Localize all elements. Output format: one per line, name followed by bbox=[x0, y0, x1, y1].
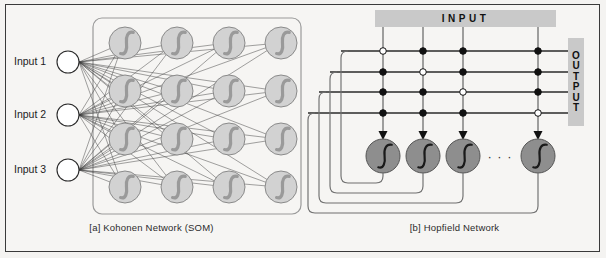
neuron-ellipsis: · · · bbox=[487, 149, 512, 164]
junction-filled[interactable] bbox=[460, 48, 467, 55]
input-label-1: Input 1 bbox=[14, 55, 46, 67]
input-label-3: Input 3 bbox=[14, 163, 46, 175]
junction-filled[interactable] bbox=[380, 89, 387, 96]
output-letter-5: T bbox=[573, 103, 579, 114]
hopfield-input-lines bbox=[379, 27, 543, 140]
input-node[interactable] bbox=[57, 104, 79, 126]
junction-open[interactable] bbox=[460, 89, 467, 96]
hopfield-junctions bbox=[380, 48, 542, 117]
feedback-loop bbox=[330, 72, 423, 193]
output-bar-label: OUTPUT bbox=[568, 38, 584, 126]
output-letter-1: U bbox=[572, 61, 579, 72]
junction-filled[interactable] bbox=[535, 48, 542, 55]
hopfield-output-rows bbox=[308, 47, 582, 118]
hopfield-neuron[interactable] bbox=[366, 139, 400, 173]
hopfield-neurons bbox=[366, 139, 555, 173]
kohonen-connections bbox=[79, 43, 279, 187]
hopfield-neuron[interactable] bbox=[521, 139, 555, 173]
junction-filled[interactable] bbox=[420, 89, 427, 96]
junction-filled[interactable] bbox=[420, 110, 427, 117]
input-node[interactable] bbox=[57, 159, 79, 181]
panel-kohonen-network: Input 1 Input 2 Input 3 bbox=[0, 0, 303, 258]
panel-hopfield-network: · · · bbox=[303, 0, 606, 258]
junction-open[interactable] bbox=[380, 48, 387, 55]
junction-filled[interactable] bbox=[460, 110, 467, 117]
caption-kohonen: [a] Kohonen Network (SOM) bbox=[0, 222, 303, 233]
kohonen-diagram bbox=[0, 0, 303, 258]
junction-open[interactable] bbox=[420, 69, 427, 76]
hopfield-neuron[interactable] bbox=[406, 139, 440, 173]
junction-filled[interactable] bbox=[535, 69, 542, 76]
junction-filled[interactable] bbox=[380, 69, 387, 76]
kohonen-input-nodes bbox=[57, 51, 79, 181]
kohonen-neurons bbox=[109, 27, 297, 203]
junction-filled[interactable] bbox=[420, 48, 427, 55]
output-letter-3: P bbox=[573, 82, 580, 93]
junction-filled[interactable] bbox=[380, 110, 387, 117]
input-bar-label: INPUT bbox=[375, 10, 556, 27]
junction-filled[interactable] bbox=[535, 89, 542, 96]
hopfield-diagram: · · · bbox=[303, 0, 606, 258]
junction-filled[interactable] bbox=[460, 69, 467, 76]
hopfield-neuron[interactable] bbox=[446, 139, 480, 173]
caption-hopfield: [b] Hopfield Network bbox=[303, 222, 606, 233]
junction-open[interactable] bbox=[535, 110, 542, 117]
input-label-2: Input 2 bbox=[14, 108, 46, 120]
figure-root: Input 1 Input 2 Input 3 [a] Kohonen Netw… bbox=[0, 0, 606, 258]
input-node[interactable] bbox=[57, 51, 79, 73]
